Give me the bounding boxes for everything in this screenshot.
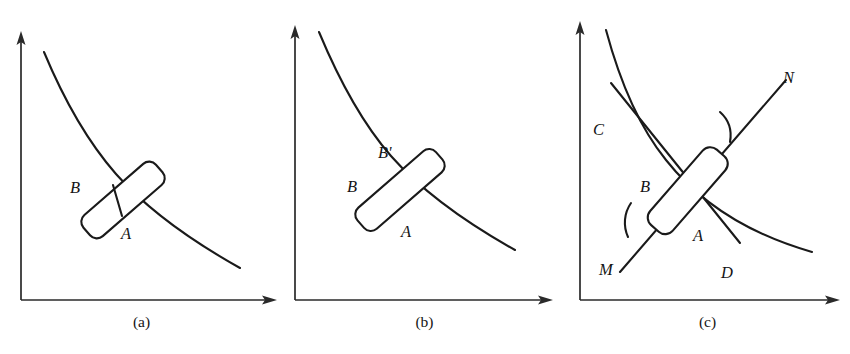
bar-body: [352, 145, 449, 234]
label-line-mn-start: M: [599, 262, 613, 279]
panel-a: B A (a): [0, 0, 283, 354]
label-point-a-b: A: [401, 224, 411, 241]
figure-root: B A (a) B B' A (b): [0, 0, 850, 354]
label-point-a-c: A: [693, 228, 703, 245]
panel-caption-b: (b): [283, 314, 566, 330]
label-line-cd-end: D: [721, 265, 733, 282]
label-point-b-prime-b: B': [378, 145, 392, 162]
rotated-rounded-bar: [352, 145, 449, 234]
label-point-a-a: A: [121, 226, 131, 243]
decreasing-curve: [319, 32, 515, 250]
decreasing-curve: [606, 30, 812, 252]
label-point-b-c: B: [640, 179, 650, 196]
label-point-b-a: B: [70, 180, 80, 197]
label-line-mn-end: N: [783, 70, 794, 87]
angle-arc-lower: [625, 203, 631, 237]
panel-caption-c: (c): [566, 314, 849, 330]
angle-arc-upper: [720, 112, 731, 142]
label-line-cd-start: C: [593, 122, 604, 139]
label-point-b-b: B: [347, 179, 357, 196]
decreasing-curve: [44, 52, 240, 268]
bar-body: [644, 143, 732, 238]
rotated-rounded-bar: [644, 143, 732, 238]
panel-c: C N B A M D (c): [566, 0, 849, 354]
panel-caption-a: (a): [0, 314, 283, 330]
panel-b: B B' A (b): [283, 0, 566, 354]
